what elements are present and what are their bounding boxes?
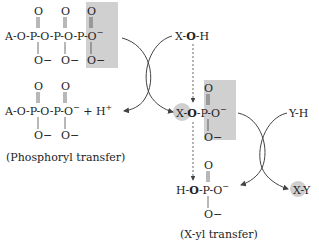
nucleophile-h: H	[199, 30, 209, 43]
atp-oxo-1: O	[34, 6, 43, 17]
phosphoryl-transfer-label: (Phosphoryl transfer)	[6, 152, 125, 163]
phosphate-charge: −	[222, 182, 229, 191]
product-xy: X-Y	[293, 185, 310, 196]
atp-chain-text: A-O-P-O-P-O-P-O	[5, 30, 97, 43]
intermediate-anion: O−	[204, 132, 222, 143]
phosphate-rest: -P-O	[199, 184, 222, 197]
proton-charge: +	[106, 103, 113, 112]
atp-anion-1: O−	[34, 55, 52, 66]
nucleophile-xoh: X-O-H	[175, 31, 209, 42]
atp-oxo-2: O	[61, 6, 70, 17]
phosphate-h: H-	[176, 184, 189, 197]
adp-oxo-2: O	[61, 81, 70, 92]
intermediate-oxo: O	[204, 83, 213, 94]
xyl-transfer-label: (X-yl transfer)	[180, 229, 258, 240]
second-nucleophile: Y-H	[289, 108, 308, 119]
phosphate-oxo: O	[204, 160, 213, 171]
phosphate-o: O	[189, 184, 199, 197]
atp-anion-3: O−	[87, 55, 105, 66]
intermediate-o: O	[187, 107, 197, 120]
adp-oxo-1: O	[34, 81, 43, 92]
atp-chain: A-O-P-O-P-O-P-O−	[5, 31, 103, 42]
intermediate-chain: X-O-P-O−	[176, 108, 227, 119]
intermediate-x: X	[176, 107, 183, 120]
phosphate-chain: H-O-P-O−	[176, 185, 229, 196]
adp-anion-1: O−	[34, 130, 52, 141]
atp-anion-2: O−	[61, 55, 79, 66]
intermediate-rest: -P-O	[197, 107, 220, 120]
nucleophile-o: O	[186, 30, 196, 43]
adp-chain: A-O-P-O-P-O− + H+	[5, 106, 112, 117]
phosphate-anion: O−	[204, 209, 222, 220]
nucleophile-x: X	[175, 30, 182, 43]
atp-charge: −	[97, 28, 104, 37]
adp-chain-text: A-O-P-O-P-O	[5, 105, 73, 118]
atp-oxo-3: O	[87, 6, 96, 17]
adp-anion-2: O−	[61, 130, 79, 141]
proton: + H	[83, 105, 105, 118]
adp-charge: −	[73, 103, 80, 112]
intermediate-charge: −	[220, 105, 227, 114]
